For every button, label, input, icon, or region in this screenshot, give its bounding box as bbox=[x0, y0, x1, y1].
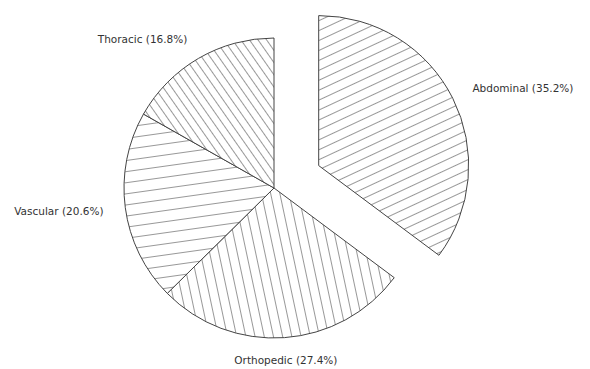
slice-label-orthopedic: Orthopedic (27.4%) bbox=[234, 354, 337, 366]
slice-label-vascular: Vascular (20.6%) bbox=[14, 205, 103, 217]
pie-slice-abdominal bbox=[319, 16, 469, 256]
slice-label-abdominal: Abdominal (35.2%) bbox=[472, 82, 573, 94]
pie-chart: Abdominal (35.2%)Orthopedic (27.4%)Vascu… bbox=[0, 0, 590, 369]
slice-label-thoracic: Thoracic (16.8%) bbox=[97, 33, 188, 45]
